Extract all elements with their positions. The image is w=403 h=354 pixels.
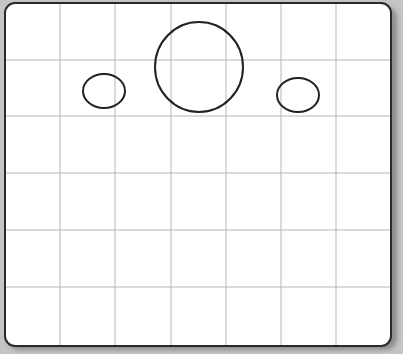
grid-canvas [4,2,392,347]
left-ellipse[interactable] [83,74,125,108]
large-circle[interactable] [155,22,243,112]
drawing-board[interactable] [4,2,392,347]
right-ellipse[interactable] [277,78,319,112]
